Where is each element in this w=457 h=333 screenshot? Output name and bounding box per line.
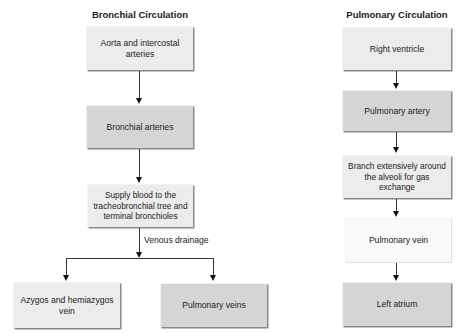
box-label: Aorta and intercostal arteries: [91, 38, 189, 60]
box-label: Pulmonary artery: [364, 106, 429, 117]
box-azygos-vein: Azygos and hemiazygos vein: [13, 282, 120, 328]
connector-line: [396, 132, 397, 148]
box-pulmonary-vein: Pulmonary vein: [345, 218, 451, 262]
arrow-down-icon: [136, 177, 142, 183]
arrow-down-icon: [393, 83, 399, 89]
arrow-down-icon: [393, 147, 399, 153]
box-label: Left atrium: [377, 299, 418, 310]
arrow-down-icon: [210, 275, 216, 281]
venous-drainage-label: Venous drainage: [144, 235, 209, 245]
bronchial-title: Bronchial Circulation: [88, 9, 192, 20]
arrow-down-icon: [63, 275, 69, 281]
arrow-down-icon: [393, 275, 399, 281]
box-aorta-intercostal: Aorta and intercostal arteries: [86, 26, 193, 70]
box-label: Supply blood to the tracheobronchial tre…: [92, 190, 189, 222]
connector-line: [139, 149, 140, 178]
box-pulmonary-veins: Pulmonary veins: [160, 283, 267, 327]
box-label: Branch extensively around the alveoli fo…: [347, 161, 447, 193]
box-pulmonary-artery: Pulmonary artery: [342, 90, 451, 131]
arrow-down-icon: [393, 211, 399, 217]
connector-line: [139, 228, 140, 253]
box-supply-blood: Supply blood to the tracheobronchial tre…: [87, 184, 193, 227]
arrow-down-icon: [136, 98, 142, 104]
box-label: Pulmonary veins: [182, 300, 246, 311]
box-right-ventricle: Right ventricle: [342, 27, 451, 70]
connector-line: [139, 71, 140, 99]
pulmonary-title: Pulmonary Circulation: [342, 9, 452, 20]
box-label: Azygos and hemiazygos vein: [18, 295, 116, 317]
circulation-diagram: Bronchial Circulation Aorta and intercos…: [0, 0, 457, 333]
box-branch-alveoli: Branch extensively around the alveoli fo…: [342, 155, 451, 198]
box-label: Bronchial arteries: [107, 122, 174, 133]
branch-line: [66, 258, 214, 259]
box-label: Pulmonary vein: [369, 235, 428, 246]
connector-line: [213, 258, 214, 276]
box-label: Right ventricle: [370, 44, 424, 55]
box-left-atrium: Left atrium: [342, 282, 451, 326]
connector-line: [66, 258, 67, 276]
box-bronchial-arteries: Bronchial arteries: [86, 105, 193, 148]
